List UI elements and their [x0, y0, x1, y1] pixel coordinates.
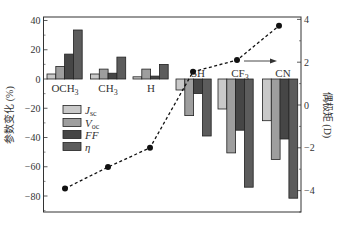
bar-η-och3 [73, 30, 82, 79]
bar-jsc-och3 [47, 74, 56, 79]
legend-swatch-jsc [63, 106, 81, 114]
right-tick-label: −4 [304, 185, 315, 196]
left-tick-label: −40 [25, 132, 41, 143]
left-axis-title: 参数变化 (%) [3, 86, 16, 144]
bar-voc-h [142, 69, 151, 79]
legend: JscVocFFη [63, 104, 100, 153]
bar-ff-sh [194, 79, 203, 94]
dipole-point-h [147, 145, 153, 151]
left-tick-label: 40 [31, 15, 41, 26]
bar-ff-cn [280, 79, 289, 139]
legend-label-η: η [85, 141, 90, 153]
category-label-och3: OCH3 [51, 82, 78, 97]
bar-η-sh [202, 79, 211, 136]
right-tick-label: 2 [304, 57, 309, 68]
bar-jsc-cn [263, 79, 272, 121]
left-tick-label: −80 [25, 191, 41, 202]
dipole-point-ch3 [105, 164, 111, 170]
legend-swatch-ff [63, 131, 81, 139]
bar-voc-cf3 [227, 79, 236, 153]
bar-jsc-ch3 [91, 74, 100, 79]
right-axis-title: 偶极矩 (D) [321, 92, 334, 138]
bar-voc-ch3 [99, 69, 108, 79]
legend-swatch-voc [63, 119, 81, 127]
category-label-ch3: CH3 [98, 82, 117, 97]
bar-η-h [159, 64, 168, 79]
category-labels: OCH3CH3HSHCF3CN [51, 67, 290, 97]
right-tick-label: 4 [304, 14, 309, 25]
right-arrow-icon [270, 59, 277, 64]
bar-η-cn [289, 79, 298, 198]
bar-jsc-h [133, 77, 142, 79]
bar-η-ch3 [117, 57, 126, 79]
bar-ff-h [151, 76, 160, 79]
right-tick-label: 0 [304, 100, 309, 111]
left-tick-label: −60 [25, 161, 41, 172]
chart-container: 40200−20−40−60−80 420−2−4 OCH3CH3HSHCF3C… [0, 0, 337, 227]
left-tick-label: 0 [36, 74, 41, 85]
bar-η-cf3 [244, 79, 253, 187]
bar-line-chart: 40200−20−40−60−80 420−2−4 OCH3CH3HSHCF3C… [0, 0, 337, 227]
dipole-point-sh [190, 69, 196, 75]
bar-voc-cn [271, 79, 280, 159]
legend-swatch-η [63, 143, 81, 151]
bar-jsc-cf3 [218, 79, 227, 109]
category-label-h: H [147, 82, 155, 94]
bar-ff-cf3 [236, 79, 245, 130]
right-axis-ticks: 420−2−4 [297, 14, 315, 212]
bar-ff-och3 [65, 54, 74, 79]
dipole-point-cn [276, 23, 282, 29]
dipole-point-cf3 [234, 57, 240, 63]
dipole-point-och3 [62, 186, 68, 192]
right-tick-label: −2 [304, 142, 315, 153]
left-tick-label: 20 [31, 44, 41, 55]
legend-label-ff: FF [84, 129, 99, 141]
category-label-cn: CN [275, 67, 290, 79]
bar-voc-och3 [56, 66, 65, 79]
left-axis-ticks: 40200−20−40−60−80 [25, 15, 48, 211]
left-tick-label: −20 [25, 103, 41, 114]
bar-ff-ch3 [108, 73, 117, 79]
